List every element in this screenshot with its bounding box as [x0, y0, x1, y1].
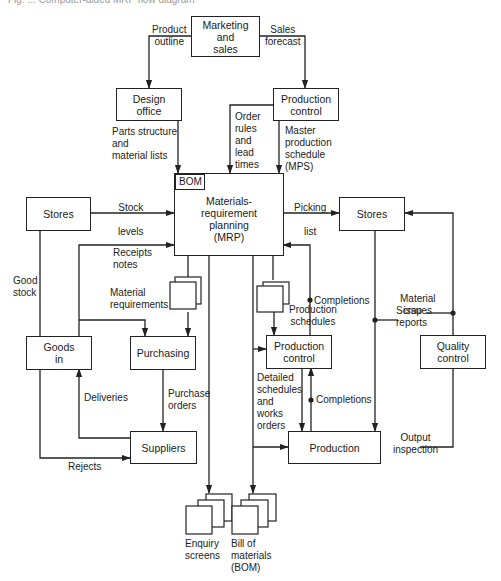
label-material-requirements: Material requirements: [110, 287, 168, 311]
label-rejects: Rejects: [68, 461, 101, 473]
label-picking-list: Picking list: [294, 202, 326, 238]
label-output-inspection: Output inspection: [393, 432, 438, 456]
production-box: Production: [288, 431, 381, 464]
stores-left-box: Stores: [26, 197, 91, 231]
label-detailed-schedules: Detailed schedules and works orders: [257, 372, 302, 432]
label-completions-bottom: Completions: [316, 394, 372, 406]
marketing-and-sales-box: Marketing and sales: [191, 16, 260, 57]
label-sales-forecast: Sales forecast: [265, 24, 301, 48]
label-purchase-orders: Purchase orders: [168, 388, 210, 412]
connector-lines: [0, 0, 501, 581]
production-control-top-box: Production control: [273, 88, 339, 121]
goods-in-box: Goods in: [26, 336, 92, 370]
production-control-mid-box: Production control: [266, 335, 332, 369]
label-product-outline: Product outline: [152, 24, 186, 48]
label-mps: Master production schedule (MPS): [285, 125, 332, 173]
label-production-schedules: Production schedules: [289, 304, 337, 328]
label-parts-structure: Parts structure and material lists: [112, 126, 177, 162]
label-deliveries: Deliveries: [84, 392, 128, 404]
quality-control-box: Quality control: [420, 335, 486, 369]
label-order-rules: Order rules and lead times: [235, 111, 261, 171]
label-scrap-reports: Scrap reports: [396, 305, 427, 329]
label-stock-levels: Stock levels: [118, 202, 144, 238]
label-receipts-notes: Receipts notes: [113, 247, 152, 271]
stores-right-box: Stores: [339, 197, 405, 231]
label-good-stock: Good stock: [13, 275, 37, 299]
design-office-box: Design office: [116, 88, 182, 121]
label-enquiry-screens: Enquiry screens: [185, 538, 220, 562]
purchasing-box: Purchasing: [130, 336, 196, 370]
mrp-bom-tag: BOM: [175, 174, 205, 190]
label-bill-of-materials: Bill of materials (BOM): [231, 538, 272, 574]
suppliers-box: Suppliers: [130, 431, 197, 464]
